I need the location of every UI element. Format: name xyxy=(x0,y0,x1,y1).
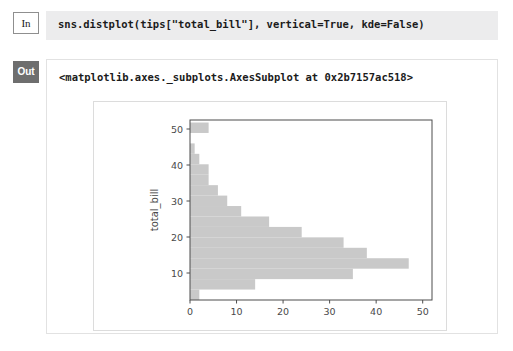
histogram-bar xyxy=(190,248,367,258)
histogram-bar xyxy=(190,206,241,216)
histogram-bar xyxy=(190,196,227,206)
y-axis-label: total_bill xyxy=(149,189,161,232)
histogram-bar xyxy=(190,143,195,153)
histogram-bar xyxy=(190,123,209,133)
histogram-bar xyxy=(190,290,199,300)
output-repr-text: <matplotlib.axes._subplots.AxesSubplot a… xyxy=(59,71,413,83)
x-tick-label: 30 xyxy=(324,306,336,317)
histogram-bar xyxy=(190,237,344,247)
x-tick-label: 10 xyxy=(230,306,242,317)
input-code-cell[interactable]: sns.distplot(tips["total_bill"], vertica… xyxy=(46,11,498,40)
x-tick-label: 20 xyxy=(277,306,289,317)
notebook-screenshot: In sns.distplot(tips["total_bill"], vert… xyxy=(0,0,513,351)
output-cell-prompt: Out xyxy=(13,61,39,83)
x-tick-label: 0 xyxy=(187,306,193,317)
histogram-bar xyxy=(190,279,255,289)
histogram-bar xyxy=(190,154,199,164)
histogram-bar xyxy=(190,269,353,279)
y-tick-label: 30 xyxy=(171,196,183,207)
histogram-bar xyxy=(190,175,209,185)
histogram-bar xyxy=(190,164,209,174)
y-tick-label: 20 xyxy=(171,232,183,243)
input-cell-prompt: In xyxy=(13,12,39,34)
histogram-bar xyxy=(190,227,302,237)
y-tick-label: 40 xyxy=(171,160,183,171)
matplotlib-figure: 010203040501020304050total_bill xyxy=(93,101,447,331)
y-tick-label: 10 xyxy=(171,268,183,279)
histogram-bar xyxy=(190,258,409,268)
code-text: sns.distplot(tips["total_bill"], vertica… xyxy=(58,18,425,30)
output-cell: <matplotlib.axes._subplots.AxesSubplot a… xyxy=(46,59,498,334)
y-tick-label: 50 xyxy=(171,124,183,135)
histogram-bar xyxy=(190,185,218,195)
histogram-plot: 010203040501020304050total_bill xyxy=(94,102,448,332)
x-tick-label: 50 xyxy=(417,306,429,317)
x-tick-label: 40 xyxy=(370,306,382,317)
histogram-bar xyxy=(190,216,269,226)
